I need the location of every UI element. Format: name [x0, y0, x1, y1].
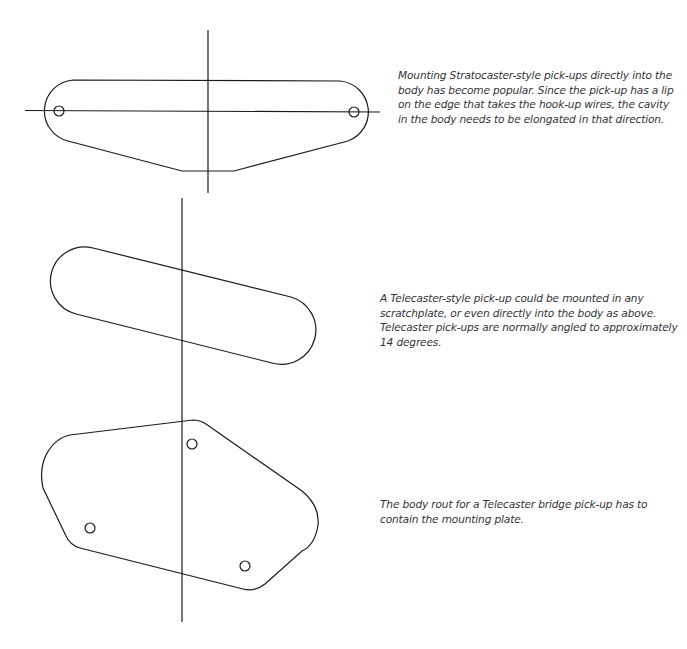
centerline-horizontal	[25, 111, 380, 113]
caption-telecaster-neck: A Telecaster-style pick-up could be moun…	[380, 291, 678, 350]
caption-stratocaster: Mounting Stratocaster-style pick-ups dir…	[398, 68, 673, 127]
telecaster-neck-pickup-outline	[50, 247, 315, 364]
mounting-hole-bottom-right	[240, 561, 250, 571]
mounting-hole-top	[187, 439, 197, 449]
mounting-hole-left	[85, 523, 95, 533]
telecaster-bridge-plate-outline	[42, 420, 319, 590]
caption-telecaster-bridge: The body rout for a Telecaster bridge pi…	[380, 497, 647, 526]
stratocaster-pickup-outline	[25, 30, 380, 193]
